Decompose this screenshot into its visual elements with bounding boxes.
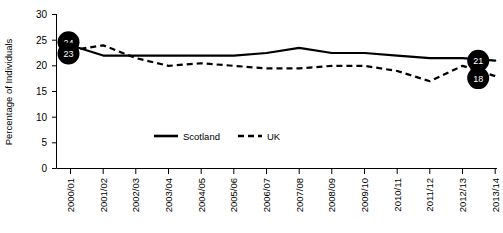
- legend-label-scotland: Scotland: [183, 131, 220, 142]
- x-tick-label: 2002/03: [130, 178, 141, 212]
- data-label-badge-text: 23: [63, 49, 73, 59]
- chart-canvas: Percentage of Individuals 30 25 20 15 10…: [0, 0, 503, 233]
- y-tick-labels: 30 25 20 15 10 5 0: [36, 9, 48, 174]
- x-tick-label: 2011/12: [424, 178, 435, 212]
- x-tick-label: 2000/01: [65, 178, 76, 212]
- x-tick-label: 2004/05: [196, 178, 207, 212]
- x-tick-label: 2012/13: [457, 178, 468, 212]
- y-tick-label: 25: [36, 35, 48, 46]
- x-tick-label: 2013/14: [490, 178, 501, 212]
- y-tick-label: 10: [36, 112, 48, 123]
- data-label-badge-text: 18: [473, 74, 483, 84]
- chart-legend: Scotland UK: [154, 131, 281, 142]
- data-label-badge-text: 21: [473, 56, 483, 66]
- x-tick-label: 2003/04: [163, 178, 174, 212]
- y-tick-label: 30: [36, 9, 48, 20]
- y-tick-label: 0: [41, 163, 47, 174]
- y-axis-title: Percentage of Individuals: [3, 38, 14, 145]
- series-line-scotland: [71, 45, 496, 60]
- x-tick-labels: 2000/01 2001/02 2002/03 2003/04 2004/05 …: [65, 178, 501, 212]
- x-tick-marks: [71, 169, 496, 175]
- legend-label-uk: UK: [267, 131, 281, 142]
- x-tick-label: 2005/06: [228, 178, 239, 212]
- x-tick-label: 2007/08: [294, 178, 305, 212]
- x-tick-label: 2008/09: [326, 178, 337, 212]
- y-tick-label: 20: [36, 60, 48, 71]
- y-tick-marks: [52, 15, 57, 169]
- x-tick-label: 2006/07: [261, 178, 272, 212]
- y-tick-label: 15: [36, 86, 48, 97]
- x-tick-label: 2009/10: [359, 178, 370, 212]
- line-chart: Percentage of Individuals 30 25 20 15 10…: [0, 0, 503, 233]
- x-tick-label: 2001/02: [98, 178, 109, 212]
- x-tick-label: 2010/11: [392, 178, 403, 212]
- y-tick-label: 5: [41, 137, 47, 148]
